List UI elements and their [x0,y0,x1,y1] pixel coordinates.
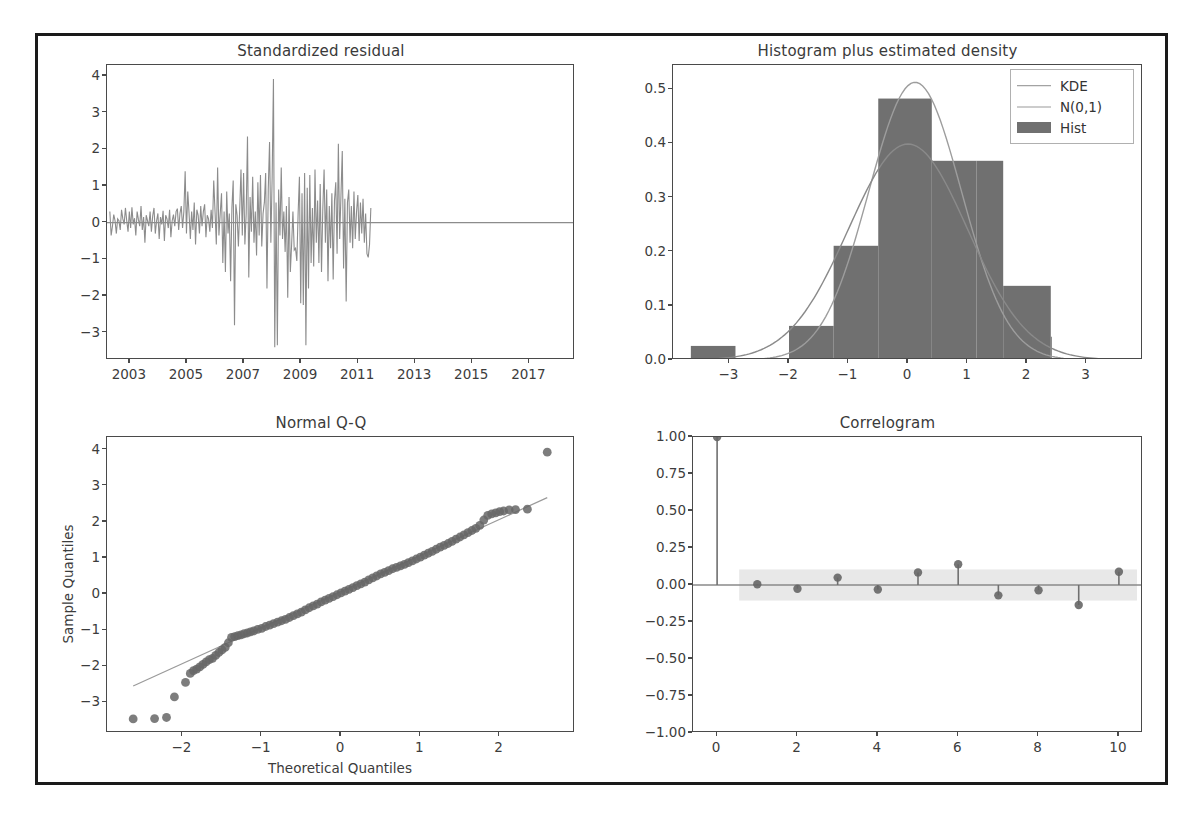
correlogram-ytick-label: −0.50 [644,650,686,666]
residual-xtick-label: 2003 [112,366,146,382]
correlogram-xtick-mark [876,732,877,736]
qq-ytick-mark [102,629,106,630]
qq-axes [106,436,574,732]
residual-ytick-label: −2 [58,287,100,303]
residual-xtick-mark [185,359,186,363]
qq-ytick-label: −2 [58,657,100,673]
residual-xtick-label: 2013 [397,366,431,382]
qq-xtick-label: −1 [251,739,271,755]
qq-yaxis-label: Sample Quantiles [60,524,76,643]
hist-patch-swatch [1017,121,1051,134]
residual-ytick-mark [102,184,106,185]
histogram-xtick-label: 2 [1022,366,1031,382]
histogram-legend: KDE N(0,1) Hist [1010,69,1134,144]
normal-line-swatch [1017,100,1051,113]
residual-xtick-label: 2017 [511,366,545,382]
correlogram-xtick-mark [796,732,797,736]
qq-xtick-label: 0 [336,739,345,755]
qq-xtick-label: 2 [494,739,503,755]
histogram-ytick-label: 0.2 [624,243,666,259]
histogram-xtick-mark [847,359,848,363]
correlogram-ytick-label: 1.00 [644,428,686,444]
qq-xtick-mark [498,732,499,736]
qq-xtick-mark [181,732,182,736]
residual-ytick-label: 2 [58,140,100,156]
correlogram-axes [692,436,1142,732]
histogram-ytick-mark [668,304,672,305]
residual-ytick-mark [102,258,106,259]
qq-xtick-mark [339,732,340,736]
qq-ytick-mark [102,665,106,666]
histogram-ytick-label: 0.5 [624,80,666,96]
legend-row-normal: N(0,1) [1017,96,1125,117]
legend-row-kde: KDE [1017,75,1125,96]
qq-ytick-label: 4 [58,441,100,457]
correlogram-xtick-mark [1117,732,1118,736]
qq-ytick-mark [102,520,106,521]
correlogram-ytick-mark [688,731,692,732]
correlogram-xtick-label: 10 [1109,739,1126,755]
residual-ytick-label: 1 [58,177,100,193]
correlogram-xtick-label: 0 [712,739,721,755]
legend-row-hist: Hist [1017,117,1125,138]
histogram-xtick-mark [906,359,907,363]
histogram-ytick-mark [668,250,672,251]
residual-ytick-mark [102,74,106,75]
qq-ytick-mark [102,484,106,485]
histogram-panel-title: Histogram plus estimated density [604,42,1171,60]
correlogram-ytick-mark [688,583,692,584]
qq-xtick-mark [260,732,261,736]
residual-ytick-mark [102,331,106,332]
residual-plot-svg [107,65,574,359]
legend-label-normal: N(0,1) [1060,99,1102,115]
correlogram-ytick-label: 0.75 [644,465,686,481]
residual-xtick-label: 2005 [169,366,203,382]
residual-ytick-mark [102,111,106,112]
residual-ytick-label: 4 [58,67,100,83]
correlogram-xtick-mark [716,732,717,736]
kde-line-swatch [1017,79,1051,92]
histogram-xtick-label: 1 [962,366,971,382]
residual-xtick-label: 2015 [454,366,488,382]
qq-ytick-mark [102,448,106,449]
histogram-xtick-mark [728,359,729,363]
histogram-xtick-label: 0 [903,366,912,382]
qq-xtick-label: 1 [415,739,424,755]
histogram-xtick-label: 3 [1081,366,1090,382]
histogram-xtick-mark [966,359,967,363]
correlogram-ytick-mark [688,435,692,436]
panel-correlogram: Correlogram 1.000.750.500.250.00−0.25−0.… [604,412,1171,788]
qq-plot-svg [107,437,574,732]
residual-xtick-mark [299,359,300,363]
correlogram-xtick-mark [1037,732,1038,736]
correlogram-ytick-mark [688,620,692,621]
residual-xtick-mark [528,359,529,363]
panel-standardized-residual: Standardized residual 43210−1−2−32003200… [38,36,604,412]
correlogram-ytick-label: −1.00 [644,724,686,740]
residual-xtick-mark [414,359,415,363]
correlogram-ytick-label: −0.25 [644,613,686,629]
histogram-ytick-label: 0.4 [624,134,666,150]
histogram-ytick-mark [668,196,672,197]
correlogram-ytick-label: −0.75 [644,687,686,703]
residual-panel-title: Standardized residual [38,42,604,60]
legend-label-kde: KDE [1060,78,1088,94]
correlogram-ytick-mark [688,472,692,473]
correlogram-ytick-mark [688,509,692,510]
residual-xtick-mark [128,359,129,363]
histogram-xtick-mark [1085,359,1086,363]
residual-xtick-mark [471,359,472,363]
residual-ytick-label: −3 [58,324,100,340]
correlogram-ytick-label: 0.25 [644,539,686,555]
correlogram-xtick-label: 4 [873,739,882,755]
histogram-xtick-mark [1025,359,1026,363]
histogram-ytick-label: 0.1 [624,297,666,313]
residual-xtick-label: 2007 [226,366,260,382]
correlogram-xtick-label: 2 [792,739,801,755]
qq-panel-title: Normal Q-Q [38,414,604,432]
residual-xtick-label: 2011 [340,366,374,382]
residual-ytick-mark [102,148,106,149]
qq-ytick-mark [102,556,106,557]
correlogram-ytick-mark [688,546,692,547]
residual-ytick-label: 0 [58,214,100,230]
